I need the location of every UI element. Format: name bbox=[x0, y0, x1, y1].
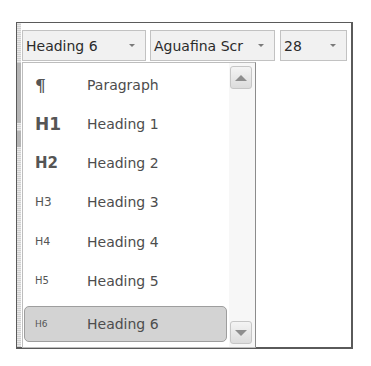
option-label: Paragraph bbox=[71, 77, 159, 93]
triangle-down-icon bbox=[235, 330, 247, 336]
style-option-heading-6[interactable]: H6 Heading 6 bbox=[24, 306, 227, 342]
left-ruler-strip bbox=[17, 23, 21, 347]
font-family-select[interactable]: Aguafina Scr bbox=[150, 30, 275, 61]
font-size-value: 28 bbox=[281, 38, 326, 54]
chevron-down-icon[interactable] bbox=[330, 44, 336, 47]
style-option-heading-5[interactable]: H5 Heading 5 bbox=[25, 262, 229, 299]
triangle-up-icon bbox=[235, 75, 247, 81]
option-label: Heading 1 bbox=[71, 116, 159, 132]
option-label: Heading 5 bbox=[71, 273, 159, 289]
option-label: Heading 4 bbox=[71, 234, 159, 250]
heading-5-icon: H5 bbox=[25, 275, 71, 286]
heading-3-icon: H3 bbox=[25, 195, 71, 209]
ruler-mark bbox=[17, 131, 21, 147]
heading-2-icon: H2 bbox=[25, 154, 71, 172]
scroll-down-button[interactable] bbox=[230, 321, 252, 344]
ruler-mark bbox=[17, 63, 21, 123]
option-label: Heading 6 bbox=[71, 316, 159, 332]
heading-6-icon: H6 bbox=[25, 319, 71, 329]
heading-4-icon: H4 bbox=[25, 235, 71, 248]
chevron-down-icon[interactable] bbox=[129, 44, 135, 47]
style-option-heading-2[interactable]: H2 Heading 2 bbox=[25, 144, 229, 181]
dropdown-scrollbar[interactable] bbox=[229, 63, 255, 347]
style-option-paragraph[interactable]: ¶ Paragraph bbox=[25, 66, 229, 103]
paragraph-style-value: Heading 6 bbox=[23, 38, 125, 54]
option-label: Heading 2 bbox=[71, 155, 159, 171]
paragraph-style-select[interactable]: Heading 6 bbox=[22, 30, 146, 61]
style-option-heading-3[interactable]: H3 Heading 3 bbox=[25, 183, 229, 220]
style-list: ¶ Paragraph H1 Heading 1 H2 Heading 2 H3… bbox=[23, 63, 229, 347]
option-label: Heading 3 bbox=[71, 194, 159, 210]
paragraph-style-dropdown: ¶ Paragraph H1 Heading 1 H2 Heading 2 H3… bbox=[22, 62, 256, 348]
heading-1-icon: H1 bbox=[25, 114, 71, 134]
paragraph-icon: ¶ bbox=[25, 75, 71, 95]
font-family-value: Aguafina Scr bbox=[151, 38, 254, 54]
style-option-heading-1[interactable]: H1 Heading 1 bbox=[25, 105, 229, 142]
style-option-heading-4[interactable]: H4 Heading 4 bbox=[25, 223, 229, 260]
chevron-down-icon[interactable] bbox=[258, 44, 264, 47]
scroll-up-button[interactable] bbox=[230, 66, 252, 89]
font-size-select[interactable]: 28 bbox=[280, 30, 347, 61]
